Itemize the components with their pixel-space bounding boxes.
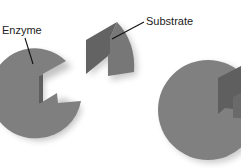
substrate-shape <box>86 22 134 76</box>
enzyme-substrate-diagram: Enzyme Substrate <box>0 0 241 168</box>
substrate-label: Substrate <box>146 16 193 27</box>
enzyme-label: Enzyme <box>2 25 42 36</box>
enzyme-substrate-complex <box>158 60 241 160</box>
